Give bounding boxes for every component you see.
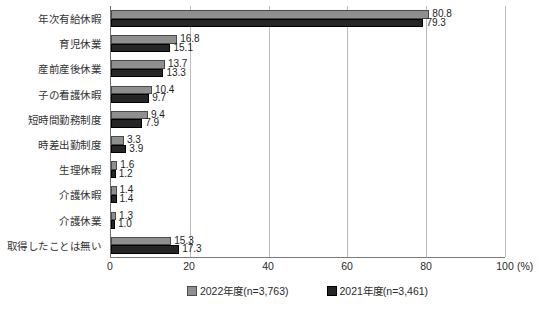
bar-line: 1.3: [111, 212, 505, 221]
legend-item: 2021年度(n=3,461): [327, 283, 429, 298]
bar-2022年度(n=3,763): [111, 60, 165, 69]
bar-line: 7.9: [111, 119, 505, 128]
bar-line: 17.3: [111, 245, 505, 254]
bar-2021年度(n=3,461): [111, 44, 170, 53]
plot-area: 80.879.316.815.113.713.310.49.79.47.93.3…: [110, 6, 505, 258]
bar-line: 1.4: [111, 195, 505, 204]
bar-line: 15.3: [111, 237, 505, 246]
bar-2022年度(n=3,763): [111, 111, 148, 120]
bar-2022年度(n=3,763): [111, 136, 124, 145]
bar-2021年度(n=3,461): [111, 220, 115, 229]
value-label: 1.4: [120, 195, 134, 204]
bar-2021年度(n=3,461): [111, 19, 423, 28]
x-tick-label-80: 80: [420, 260, 432, 272]
category-label: 子の看護休暇: [0, 82, 106, 107]
gridline-100: [505, 6, 506, 257]
category-labels: 年次有給休暇育児休業産前産後休業子の看護休暇短時間勤務制度時差出勤制度生理休暇介…: [0, 6, 106, 257]
bar-row: 80.879.3: [111, 6, 505, 27]
bar-row: 16.815.1: [111, 31, 505, 52]
bar-chart: 年次有給休暇育児休業産前産後休業子の看護休暇短時間勤務制度時差出勤制度生理休暇介…: [0, 0, 542, 311]
bar-2022年度(n=3,763): [111, 186, 117, 195]
category-label: 短時間勤務制度: [0, 107, 106, 132]
x-tick-label-20: 20: [183, 260, 195, 272]
legend-swatch-icon: [327, 286, 337, 296]
category-label: 介護休業: [0, 208, 106, 233]
legend: 2022年度(n=3,763)2021年度(n=3,461): [110, 283, 505, 298]
value-label: 17.3: [182, 245, 201, 254]
bar-row: 1.31.0: [111, 208, 505, 229]
bar-line: 3.3: [111, 136, 505, 145]
bar-row: 1.41.4: [111, 182, 505, 203]
bar-row: 3.33.9: [111, 132, 505, 153]
bar-2021年度(n=3,461): [111, 69, 163, 78]
x-tick-label-0: 0: [107, 260, 113, 272]
category-label: 取得したことは無い: [0, 233, 106, 258]
bar-line: 79.3: [111, 19, 505, 28]
bar-line: 3.9: [111, 145, 505, 154]
bar-2021年度(n=3,461): [111, 195, 117, 204]
bar-2022年度(n=3,763): [111, 35, 177, 44]
bar-2021年度(n=3,461): [111, 245, 179, 254]
value-label: 7.9: [145, 119, 159, 128]
category-label: 生理休暇: [0, 157, 106, 182]
category-label: 介護休暇: [0, 182, 106, 207]
value-label: 1.0: [118, 220, 132, 229]
bar-2022年度(n=3,763): [111, 237, 171, 246]
legend-label: 2021年度(n=3,461): [340, 283, 429, 298]
bar-line: 13.3: [111, 69, 505, 78]
value-label: 1.2: [119, 170, 133, 179]
value-label: 3.9: [129, 145, 143, 154]
bar-line: 1.6: [111, 161, 505, 170]
value-label: 79.3: [426, 19, 445, 28]
category-label: 年次有給休暇: [0, 6, 106, 31]
category-label: 育児休業: [0, 31, 106, 56]
bar-line: 1.4: [111, 186, 505, 195]
bar-line: 16.8: [111, 35, 505, 44]
legend-swatch-icon: [187, 286, 197, 296]
bar-row: 1.61.2: [111, 157, 505, 178]
x-tick-label-40: 40: [262, 260, 274, 272]
bar-line: 1.0: [111, 220, 505, 229]
x-axis-unit: (%): [517, 260, 533, 272]
bar-line: 10.4: [111, 86, 505, 95]
bar-2022年度(n=3,763): [111, 10, 429, 19]
bar-2022年度(n=3,763): [111, 212, 116, 221]
bar-line: 1.2: [111, 170, 505, 179]
category-label: 時差出勤制度: [0, 132, 106, 157]
bar-2022年度(n=3,763): [111, 86, 152, 95]
bar-2021年度(n=3,461): [111, 145, 126, 154]
legend-label: 2022年度(n=3,763): [200, 283, 289, 298]
bar-line: 9.4: [111, 111, 505, 120]
bar-line: 15.1: [111, 44, 505, 53]
bar-2022年度(n=3,763): [111, 161, 117, 170]
x-axis: (%) 020406080100: [110, 260, 505, 274]
value-label: 9.7: [152, 94, 166, 103]
bar-line: 9.7: [111, 94, 505, 103]
bar-row: 15.317.3: [111, 233, 505, 254]
bar-2021年度(n=3,461): [111, 94, 149, 103]
bar-row: 10.49.7: [111, 82, 505, 103]
x-tick-label-60: 60: [341, 260, 353, 272]
value-label: 13.3: [166, 69, 185, 78]
value-label: 15.1: [173, 44, 192, 53]
category-label: 産前産後休業: [0, 56, 106, 81]
legend-item: 2022年度(n=3,763): [187, 283, 289, 298]
bar-row: 13.713.3: [111, 56, 505, 77]
bar-2021年度(n=3,461): [111, 170, 116, 179]
bar-2021年度(n=3,461): [111, 119, 142, 128]
x-tick-label-100: 100: [496, 260, 514, 272]
bar-row: 9.47.9: [111, 107, 505, 128]
